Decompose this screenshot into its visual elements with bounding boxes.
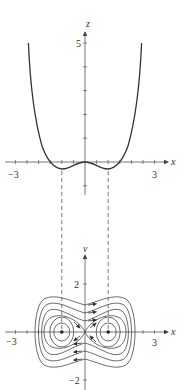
equilibrium-right	[106, 330, 110, 334]
phase-v-label: v	[83, 243, 88, 254]
top-z-label: z	[85, 18, 90, 29]
top-z-tick-5: 5	[76, 38, 81, 49]
figure-canvas: z 5 x −3 3	[0, 0, 191, 390]
top-x-tick-3: 3	[152, 169, 157, 180]
phase-x-tick-3: 3	[152, 337, 157, 348]
top-plot: z 5 x −3 3	[5, 18, 176, 195]
phase-x-label: x	[170, 326, 176, 337]
phase-v-tick-2: 2	[74, 279, 79, 290]
top-x-label: x	[170, 156, 176, 167]
top-x-tick-neg3: −3	[8, 169, 19, 180]
phase-plot: v 2 −2 x −3 3	[5, 243, 176, 390]
phase-v-tick-neg2: −2	[69, 375, 80, 386]
phase-x-tick-neg3: −3	[6, 336, 17, 347]
equilibrium-left	[60, 330, 64, 334]
